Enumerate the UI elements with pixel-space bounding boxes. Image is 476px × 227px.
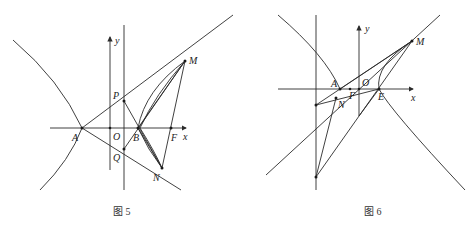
point-A: [81, 127, 84, 130]
point-M: [411, 40, 414, 43]
point-bottom: [315, 176, 318, 179]
point-M: [184, 60, 187, 63]
point-O: [109, 127, 112, 130]
label-A: A: [330, 78, 338, 89]
figure-6: y x A O F E M N 图 6: [266, 15, 465, 217]
line-AM: [340, 41, 412, 89]
label-M: M: [188, 55, 198, 66]
line-left-E: [316, 89, 379, 105]
caption-fig5: 图 5: [113, 206, 131, 217]
label-N: N: [337, 99, 346, 110]
label-N: N: [152, 172, 161, 183]
point-N: [161, 167, 164, 170]
line-bottom-N: [316, 98, 336, 177]
label-F: F: [348, 90, 356, 101]
point-F: [170, 127, 173, 130]
label-M: M: [415, 36, 425, 47]
point-O: [358, 88, 361, 91]
figure-5: y x A O B F P Q M N 图 5: [13, 15, 233, 217]
caption-fig6: 图 6: [364, 206, 382, 217]
diagram-canvas: y x A O B F P Q M N 图 5 y x A: [0, 0, 476, 227]
curve-MBN: [140, 61, 185, 168]
hyperbola-right-branch: [138, 61, 185, 168]
label-y: y: [114, 35, 120, 46]
line-BN: [138, 128, 162, 168]
point-A: [339, 88, 342, 91]
label-E: E: [377, 91, 384, 102]
label-P: P: [112, 90, 119, 101]
label-O: O: [362, 77, 369, 88]
label-y: y: [364, 23, 370, 34]
label-B: B: [133, 132, 139, 143]
point-left: [315, 104, 318, 107]
point-Q: [123, 148, 126, 151]
point-B: [137, 127, 140, 130]
point-P: [123, 100, 126, 103]
line-AM: [82, 15, 233, 128]
line-AN: [82, 128, 181, 190]
label-A: A: [71, 132, 79, 143]
label-x: x: [410, 92, 416, 103]
label-x: x: [182, 131, 188, 142]
label-O: O: [113, 131, 120, 142]
hyperbola-right-branch-lower: [379, 89, 465, 190]
label-Q: Q: [113, 152, 121, 163]
hyperbola-left-branch: [13, 40, 82, 190]
label-F: F: [170, 132, 178, 143]
